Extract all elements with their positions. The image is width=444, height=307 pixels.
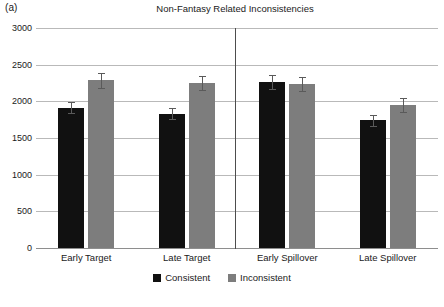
gridline [36,28,438,29]
error-bar-cap [199,90,206,91]
error-bar-cap [68,113,75,114]
gridline [36,65,438,66]
bar-late-target-inconsistent [189,83,215,248]
error-bar-cap [98,88,105,89]
error-bar-cap [169,119,176,120]
error-bar-cap [370,126,377,127]
legend-swatch-icon [228,274,236,282]
x-axis-category-label: Late Spillover [328,252,444,264]
error-bar [272,75,273,90]
error-bar-cap [400,112,407,113]
bar-late-target-consistent [159,114,185,248]
y-axis-tick-label: 2500 [0,60,32,70]
error-bar-cap [169,108,176,109]
error-bar-cap [269,75,276,76]
error-bar-cap [299,91,306,92]
error-bar-cap [400,98,407,99]
legend-label: Consistent [165,272,210,283]
bar-early-spillover-consistent [259,82,285,248]
error-bar-cap [199,76,206,77]
bar-early-target-inconsistent [88,80,114,248]
legend-item-consistent: Consistent [153,272,210,283]
error-bar [172,108,173,119]
error-bar-cap [370,115,377,116]
error-bar [403,98,404,112]
error-bar-cap [299,77,306,78]
plot-area [36,28,438,248]
y-axis-tick-label: 3000 [0,23,32,33]
legend-item-inconsistent: Inconsistent [228,272,291,283]
bar-late-spillover-consistent [360,120,386,248]
error-bar [101,73,102,88]
y-axis-tick-label: 500 [0,206,32,216]
error-bar-cap [68,102,75,103]
y-axis-tick-labels: 300025002000150010005000 [0,28,32,248]
panel-label: (a) [5,2,18,14]
group-divider [235,28,236,249]
y-axis-tick-label: 1500 [0,133,32,143]
legend-swatch-icon [153,274,161,282]
error-bar-cap [98,73,105,74]
error-bar [202,76,203,90]
error-bar-cap [269,89,276,90]
error-bar [302,77,303,92]
x-axis-line [36,248,438,249]
y-axis-tick-label: 2000 [0,96,32,106]
error-bar [71,102,72,113]
error-bar [373,115,374,126]
bar-early-spillover-inconsistent [289,84,315,248]
chart-title: Non-Fantasy Related Inconsistencies [30,3,440,15]
bar-late-spillover-inconsistent [390,105,416,248]
y-axis-tick-label: 1000 [0,170,32,180]
legend-label: Inconsistent [240,272,291,283]
bar-early-target-consistent [58,108,84,248]
figure: (a) Non-Fantasy Related Inconsistencies … [0,0,444,307]
legend: ConsistentInconsistent [0,272,444,283]
